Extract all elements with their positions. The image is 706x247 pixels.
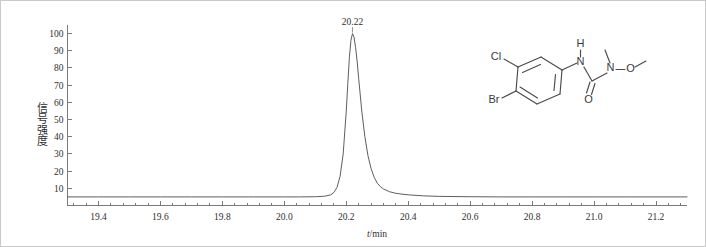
bond-carbonyl-double-1 [587,82,591,93]
y-axis-tick-label: 90 [54,46,64,56]
x-axis-tick-label: 21.0 [586,212,603,222]
atom-label-methoxy-oxygen: O [626,62,635,74]
x-axis-tick-label: 20.8 [524,212,541,222]
ring-bond-4 [537,94,560,104]
ring-bond-3 [560,70,562,94]
ring-bond-2 [541,57,562,70]
x-axis-title: t/min [367,229,387,239]
x-axis-ticks [98,201,656,206]
y-axis-tick-label: 70 [54,81,64,91]
x-axis-tick-label: 19.4 [90,212,107,222]
x-axis-title-units: /min [370,229,388,239]
x-axis-tick-label: 19.8 [214,212,231,222]
y-axis-ticks [68,34,72,189]
bond-carbonyl-to-n [592,73,607,81]
y-axis-tick-label: 40 [54,132,64,142]
atom-label-carbonyl-oxygen: O [584,93,593,105]
ring-inner-bond-3 [520,87,538,98]
chromatogram-figure: 信号强度 102030405060708090100 19.419.619.82… [0,0,706,247]
ring-bond-5 [516,91,537,104]
chromatogram-trace [68,34,688,197]
bond-o-methyl [635,61,646,67]
y-axis-tick-label: 30 [54,149,64,159]
x-axis-tick-label: 20.0 [276,212,293,222]
chemical-structure-chlorbromuron: Cl Br H N O N O [489,37,647,105]
ring-inner-bond-1 [523,65,541,73]
y-axis-tick-label: 10 [54,184,64,194]
y-axis-tick-label: 100 [49,29,64,39]
atom-label-amide-nitrogen: N [577,55,585,67]
ring-inner-bond-2 [554,75,556,91]
x-axis-tick-label: 20.4 [400,212,417,222]
atom-label-chlorine: Cl [491,50,501,62]
chromatogram-plot: 102030405060708090100 19.419.619.820.020… [1,1,706,247]
x-axis-tick-label: 20.2 [338,212,355,222]
x-axis-tick-label: 21.2 [648,212,665,222]
atom-label-amide-hydrogen: H [577,37,585,49]
y-axis-tick-label: 50 [54,115,64,125]
y-axis-tick-label: 60 [54,98,64,108]
y-axis-tick-label: 20 [54,167,64,177]
atom-label-bromine: Br [489,93,500,105]
bond-c-br [502,91,516,98]
bond-c-cl [504,59,518,67]
atom-label-methoxy-nitrogen: N [607,61,615,73]
bond-ring-to-amide-n [562,63,577,70]
x-axis-tick-labels: 19.419.619.820.020.220.420.620.821.021.2 [90,212,664,222]
y-axis-tick-label: 80 [54,63,64,73]
x-axis-tick-label: 19.6 [152,212,169,222]
ring-bond-6 [516,67,518,91]
peak-retention-time-label: 20.22 [342,17,364,27]
bond-amide-n-to-carbonyl [584,67,592,81]
y-axis-tick-labels: 102030405060708090100 [49,29,64,194]
x-axis-tick-label: 20.6 [462,212,479,222]
